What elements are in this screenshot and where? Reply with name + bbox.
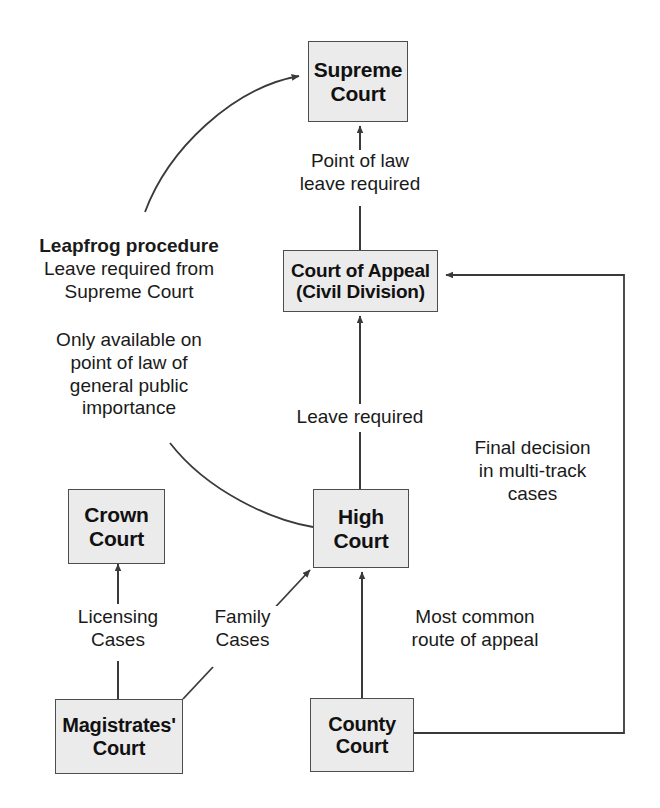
label-point-of-law: Point of law leave required [260,150,460,196]
node-court-of-appeal-line-2: (Civil Division) [296,281,425,302]
label-leapfrog-procedure-line-2: Leave required from [18,258,240,281]
label-point-of-law-line-2: leave required [260,173,460,196]
label-only-available-line-3: general public [22,375,236,398]
court-hierarchy-diagram: Supreme Court Court of Appeal (Civil Div… [0,0,660,808]
label-final-decision: Final decision in multi-track cases [455,437,610,505]
label-final-decision-line-3: cases [455,483,610,506]
node-court-of-appeal[interactable]: Court of Appeal (Civil Division) [283,250,438,312]
node-high-court-line-2: Court [334,529,389,553]
label-licensing-cases: Licensing Cases [38,606,198,652]
node-county-court-line-1: County [328,713,396,735]
label-leapfrog-procedure: Leapfrog procedure Leave required from S… [18,235,240,303]
label-most-common-route-line-1: Most common [380,606,570,629]
node-crown-court-line-2: Court [89,527,144,551]
node-high-court-line-1: High [338,505,384,529]
label-leapfrog-procedure-line-3: Supreme Court [18,281,240,304]
node-crown-court-line-1: Crown [84,503,148,527]
label-most-common-route-line-2: route of appeal [380,629,570,652]
label-only-available-line-1: Only available on [22,329,236,352]
connector-leapfrog-lower [170,443,313,527]
label-point-of-law-line-1: Point of law [260,150,460,173]
label-leapfrog-procedure-line-1: Leapfrog procedure [18,235,240,258]
label-family-cases-line-1: Family [185,606,300,629]
node-supreme-court-line-2: Court [331,82,386,106]
label-leave-required: Leave required [280,406,440,429]
label-final-decision-line-1: Final decision [455,437,610,460]
label-most-common-route: Most common route of appeal [380,606,570,652]
label-only-available: Only available on point of law of genera… [22,329,236,420]
node-supreme-court[interactable]: Supreme Court [308,41,408,122]
node-magistrates-court-line-2: Court [93,737,145,759]
label-family-cases: Family Cases [185,606,300,652]
label-leave-required-line-1: Leave required [280,406,440,429]
node-county-court-line-2: Court [336,735,388,757]
node-supreme-court-line-1: Supreme [314,58,402,82]
node-magistrates-court[interactable]: Magistrates' Court [55,699,183,774]
label-only-available-line-2: point of law of [22,352,236,375]
label-only-available-line-4: importance [22,397,236,420]
label-family-cases-line-2: Cases [185,629,300,652]
node-magistrates-court-line-1: Magistrates' [62,714,176,736]
label-final-decision-line-2: in multi-track [455,460,610,483]
node-county-court[interactable]: County Court [310,698,414,772]
label-licensing-cases-line-2: Cases [38,629,198,652]
node-high-court[interactable]: High Court [313,489,409,568]
node-court-of-appeal-line-1: Court of Appeal [291,260,430,281]
connector-magistrates-to-high-lower [183,667,213,699]
label-licensing-cases-line-1: Licensing [38,606,198,629]
node-crown-court[interactable]: Crown Court [68,489,165,564]
